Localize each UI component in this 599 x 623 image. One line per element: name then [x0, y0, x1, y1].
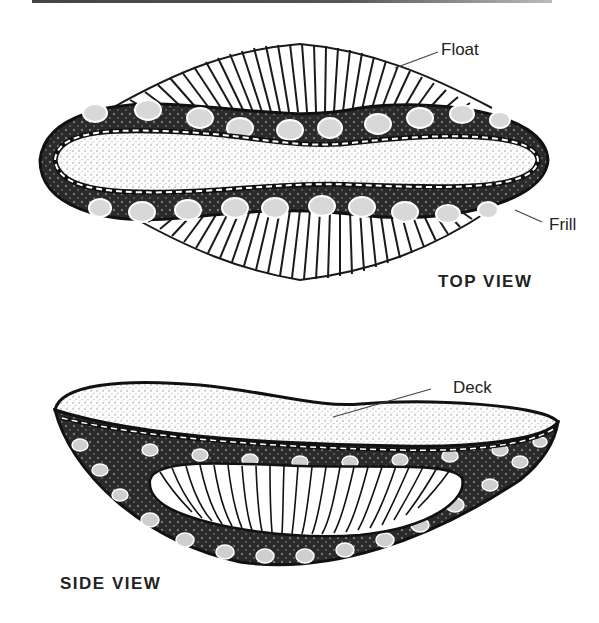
organism-diagram: [0, 0, 599, 623]
deck-label: Deck: [453, 378, 492, 398]
top-view-caption: TOP VIEW: [438, 272, 533, 292]
side-view-caption: SIDE VIEW: [60, 574, 161, 594]
top-view-drawing: [40, 44, 548, 280]
side-view-drawing: [55, 382, 558, 564]
frill-label: Frill: [549, 215, 576, 235]
frill-leader-line: [515, 210, 542, 222]
float-label: Float: [441, 40, 479, 60]
float-leader-line: [395, 52, 438, 68]
